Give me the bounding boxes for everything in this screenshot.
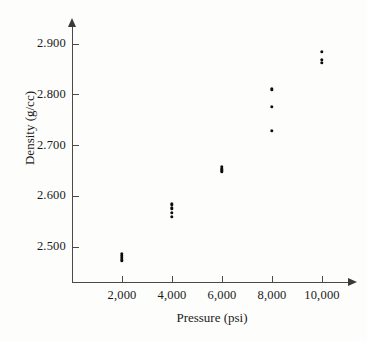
y-tick-label: 2.500 [18,240,66,253]
x-tick [222,276,223,282]
x-tick [272,276,273,282]
x-axis-arrow-icon [348,278,357,286]
y-tick [73,145,79,146]
x-tick-label-text: 10,000 [287,288,357,302]
y-tick-label-text: 2.500 [18,240,66,253]
data-point [320,61,323,64]
data-point [170,203,173,206]
y-tick [73,196,79,197]
y-axis-arrow-icon [68,18,76,27]
y-axis-line [72,26,73,283]
y-tick [73,94,79,95]
x-tick-label: 10,000 [287,288,357,302]
data-point [170,207,173,210]
x-tick [172,276,173,282]
data-point [320,50,323,53]
scatter-plot-figure: 2.5002.6002.7002.8002.900 2,0004,0006,00… [0,0,367,341]
x-tick [322,276,323,282]
data-point [120,258,123,261]
data-point [270,88,273,91]
x-axis-title: Pressure (psi) [72,310,352,326]
x-tick [122,276,123,282]
data-point [270,129,273,132]
y-tick [73,247,79,248]
y-tick [73,44,79,45]
data-point [270,105,273,108]
data-point [220,170,223,173]
x-axis-line [72,282,352,283]
data-point [170,211,173,214]
data-point [170,215,173,218]
y-axis-title: Density (g/cc) [22,48,38,208]
